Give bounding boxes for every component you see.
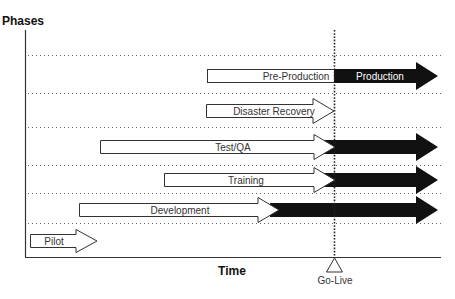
- production-label: Production: [356, 71, 404, 82]
- development-label: Development: [151, 205, 210, 216]
- y-axis-label: Phases: [2, 14, 44, 28]
- training-label: Training: [228, 175, 264, 186]
- disaster-recovery-label: Disaster Recovery: [233, 106, 315, 117]
- phase-training: Training: [165, 166, 439, 194]
- phases-timeline-diagram: Phases Time Pre-Production Production Di…: [0, 0, 455, 299]
- development-post-arrow: [270, 196, 438, 224]
- pilot-label: Pilot: [44, 236, 64, 247]
- pre-production-label: Pre-Production: [263, 71, 330, 82]
- phase-test-qa: Test/QA: [101, 133, 439, 161]
- phase-development: Development: [80, 196, 439, 224]
- x-axis-label: Time: [218, 264, 246, 278]
- phase-pilot: Pilot: [31, 230, 98, 253]
- go-live-label: Go-Live: [317, 275, 352, 286]
- training-post-arrow: [318, 166, 438, 194]
- phase-disaster-recovery: Disaster Recovery: [207, 99, 335, 124]
- triangle-marker-icon: [327, 258, 343, 272]
- test-qa-label: Test/QA: [215, 142, 251, 153]
- pilot-arrow: [31, 230, 98, 253]
- test-qa-post-arrow: [318, 133, 438, 161]
- phase-pre-production: Pre-Production Production: [208, 62, 439, 90]
